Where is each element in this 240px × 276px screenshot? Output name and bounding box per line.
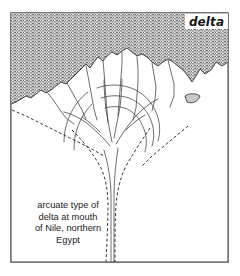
caption-line-1: arcuate type of <box>16 200 120 212</box>
figure-caption: arcuate type of delta at mouth of Nile, … <box>16 200 120 246</box>
caption-line-4: Egypt <box>16 235 120 247</box>
delta-figure: delta arcuate type of delta at mouth of … <box>0 0 240 276</box>
delta-label-text: delta <box>189 16 224 28</box>
caption-line-2: delta at mouth <box>16 212 120 224</box>
caption-line-3: of Nile, northern <box>16 223 120 235</box>
delta-label-box: delta <box>185 14 228 29</box>
